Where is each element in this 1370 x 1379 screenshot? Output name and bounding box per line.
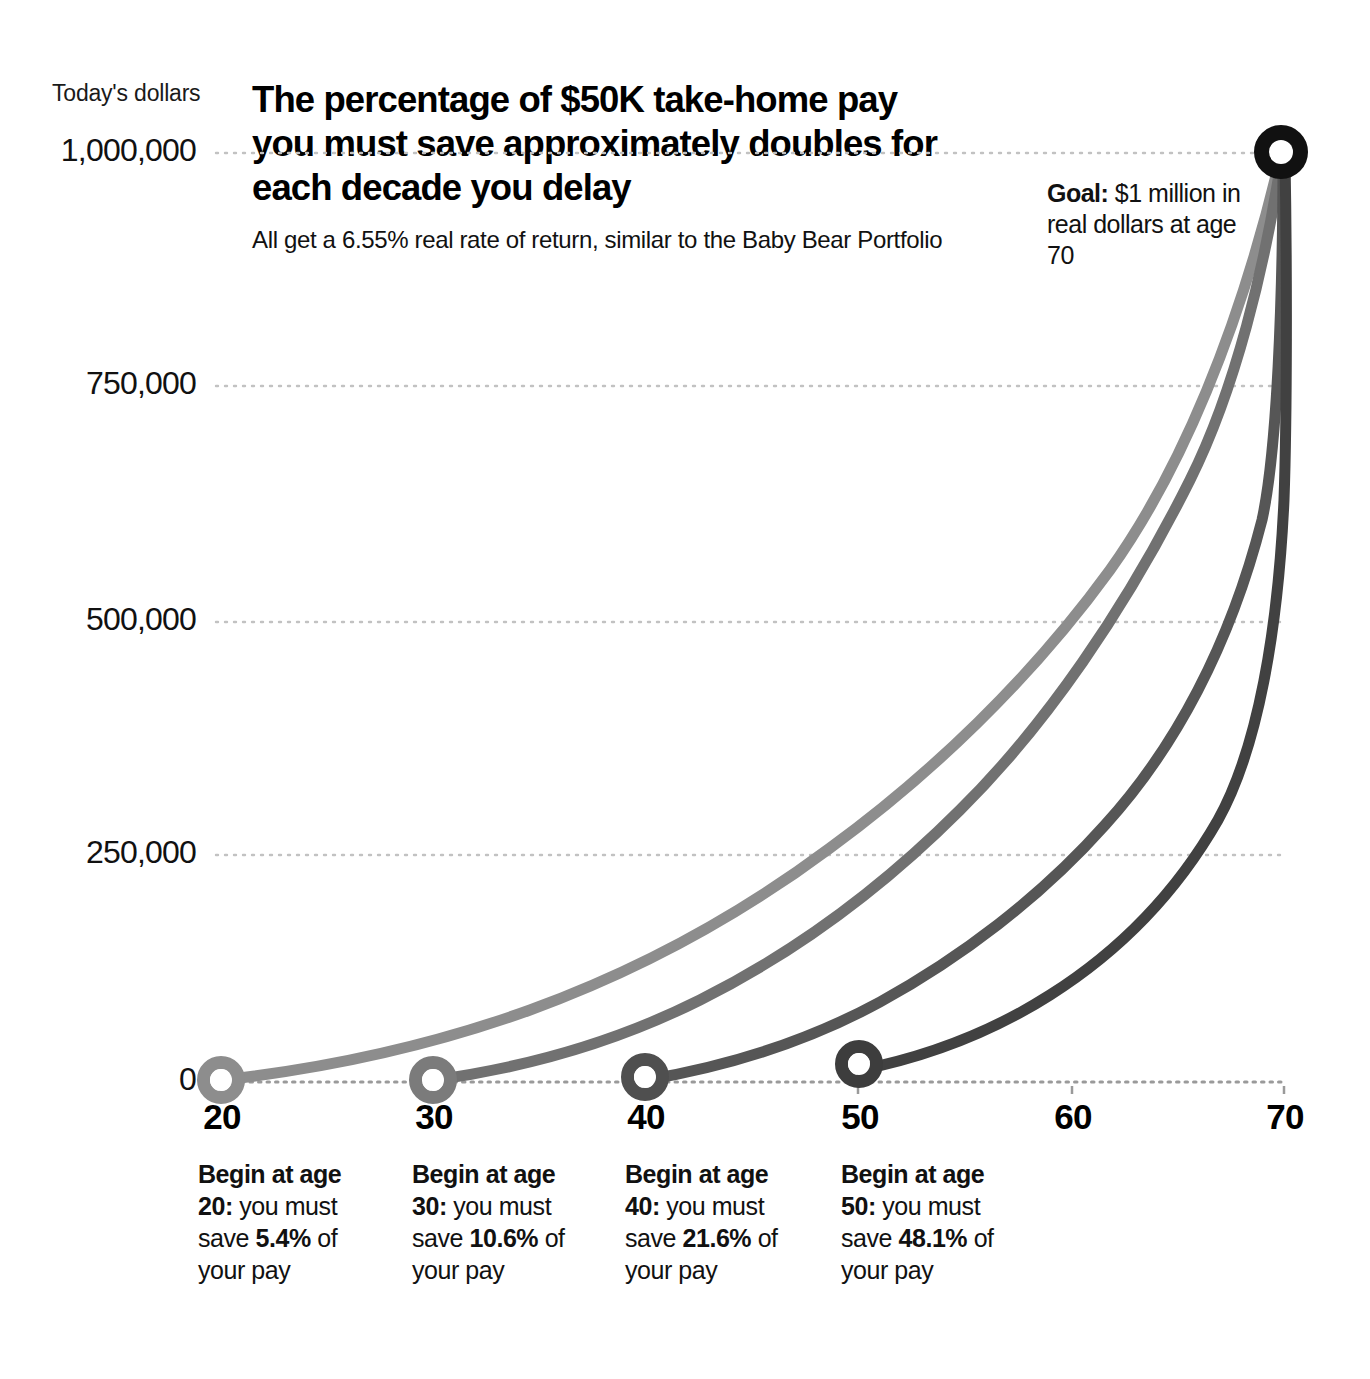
series-line-age40: [646, 156, 1283, 1080]
marker-age30-core: [422, 1069, 444, 1091]
marker-goal-age70-core: [1269, 140, 1293, 164]
y-axis-tick-label: 750,000: [86, 365, 196, 402]
x-axis-ticks: [220, 1086, 1284, 1094]
callout-age50: Begin at age 50: you must save 48.1% of …: [841, 1158, 1017, 1286]
y-axis-tick-label: 250,000: [86, 834, 196, 871]
y-axis-tick-label: 500,000: [86, 601, 196, 638]
chart-canvas: Today's dollars The percentage of $50K t…: [0, 0, 1370, 1379]
x-axis-tick-label-20: 20: [203, 1097, 241, 1137]
callout-pct: 5.4%: [256, 1224, 311, 1252]
x-axis-tick-label-30: 30: [415, 1097, 453, 1137]
marker-age50-core: [848, 1053, 870, 1075]
callout-age20: Begin at age 20: you must save 5.4% of y…: [198, 1158, 374, 1286]
x-axis-tick-label-50: 50: [841, 1097, 879, 1137]
x-axis-tick-label-70: 70: [1266, 1097, 1304, 1137]
x-axis-tick-label-40: 40: [627, 1097, 665, 1137]
callout-age30: Begin at age 30: you must save 10.6% of …: [412, 1158, 588, 1286]
y-axis-tick-label: 0: [179, 1061, 196, 1098]
marker-age40-core: [634, 1066, 656, 1088]
marker-age20-core: [210, 1069, 232, 1091]
x-axis-tick-label-60: 60: [1054, 1097, 1092, 1137]
callout-pct: 48.1%: [899, 1224, 968, 1252]
y-axis-tick-label: 1,000,000: [61, 132, 196, 169]
callout-age40: Begin at age 40: you must save 21.6% of …: [625, 1158, 801, 1286]
series-line-age30: [434, 155, 1282, 1080]
series-curves: [222, 155, 1286, 1080]
callout-pct: 21.6%: [683, 1224, 752, 1252]
callout-pct: 10.6%: [470, 1224, 539, 1252]
series-markers: [204, 133, 1301, 1098]
